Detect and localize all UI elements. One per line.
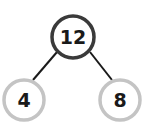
child-node-right: 8 xyxy=(100,80,140,120)
number-bond-diagram: 12 4 8 xyxy=(0,0,144,125)
root-node: 12 xyxy=(52,16,94,58)
child-node-right-value: 8 xyxy=(113,89,126,111)
child-node-left-value: 4 xyxy=(17,89,30,111)
connector-left xyxy=(33,52,57,80)
child-node-left: 4 xyxy=(4,80,44,120)
connector-right xyxy=(90,52,112,80)
root-node-value: 12 xyxy=(60,26,86,48)
